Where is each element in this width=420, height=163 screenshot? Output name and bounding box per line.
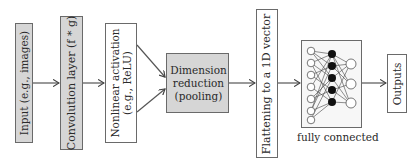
pooling-label-line3: (pooling) <box>169 90 228 103</box>
activation-label: Nonlinear activation (e.g., ReLU) <box>109 28 133 137</box>
pooling-label: Dimension reduction (pooling) <box>167 64 228 103</box>
flatten-box: Flattening to a 1D vector <box>256 9 278 158</box>
flatten-label: Flattening to a 1D vector <box>261 13 273 153</box>
activation-label-line1: Nonlinear activation <box>109 28 121 137</box>
pooling-box: Dimension reduction (pooling) <box>166 53 229 113</box>
activation-box: Nonlinear activation (e.g., ReLU) <box>105 23 137 143</box>
convolution-box: Convolution layer (f * g) <box>60 16 83 150</box>
outputs-label: Outputs <box>391 62 403 105</box>
pooling-label-line1: Dimension <box>169 64 228 77</box>
pooling-label-line2: reduction <box>169 77 228 90</box>
fully-connected-caption: fully connected <box>297 131 379 143</box>
outputs-box: Outputs <box>387 54 407 113</box>
input-label: Input (e.g., images) <box>18 31 30 135</box>
convolution-label: Convolution layer (f * g) <box>66 16 78 150</box>
fully-connected-box <box>301 40 362 128</box>
neural-network-icon <box>302 41 361 127</box>
arrow-activation-to-pooling-upper <box>137 45 165 77</box>
activation-label-line2: (e.g., ReLU) <box>121 28 133 137</box>
arrow-activation-to-pooling-lower <box>137 89 165 112</box>
input-box: Input (e.g., images) <box>15 23 33 143</box>
